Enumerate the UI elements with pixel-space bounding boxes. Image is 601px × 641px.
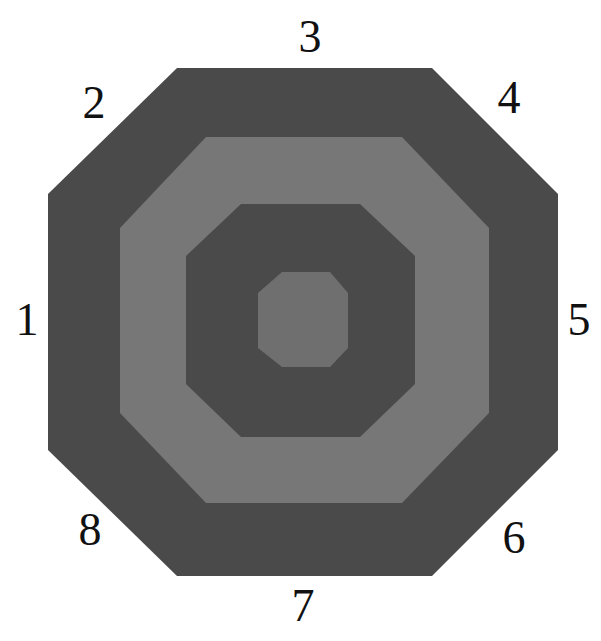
side-label-8: 8 [79, 507, 102, 553]
side-label-5: 5 [568, 297, 591, 343]
side-label-4: 4 [498, 75, 521, 121]
side-label-1: 1 [16, 297, 39, 343]
side-label-7: 7 [292, 583, 315, 629]
side-label-6: 6 [503, 515, 526, 561]
side-label-3: 3 [299, 14, 322, 60]
side-label-2: 2 [83, 80, 106, 126]
center-octagon [258, 272, 348, 367]
